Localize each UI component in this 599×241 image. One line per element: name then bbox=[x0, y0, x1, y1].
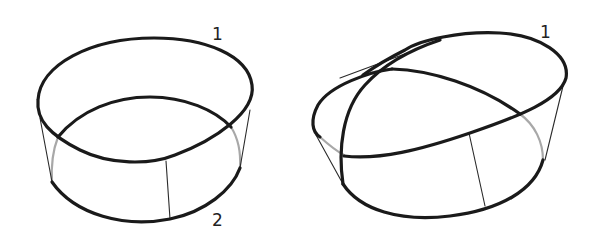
right-label-1: 1 bbox=[540, 22, 551, 42]
left-hidden-arc-left bbox=[52, 137, 58, 182]
left-label-2: 2 bbox=[212, 210, 223, 230]
right-inner-arch-curve bbox=[392, 69, 520, 114]
right-seam-line bbox=[469, 133, 485, 206]
left-seam-line bbox=[166, 161, 170, 219]
right-figure: 1 bbox=[313, 22, 566, 218]
left-label-1: 1 bbox=[212, 24, 223, 44]
left-top-edge-curve bbox=[38, 38, 252, 162]
diagram-canvas: 1 2 1 bbox=[0, 0, 599, 241]
right-crossing-arc bbox=[341, 40, 440, 184]
left-inner-arch-curve bbox=[58, 97, 231, 137]
right-side-line-left bbox=[316, 135, 343, 184]
right-bottom-edge-curve bbox=[343, 160, 543, 218]
left-hidden-arc-right bbox=[231, 127, 240, 168]
right-hidden-arc-right bbox=[520, 114, 543, 160]
left-figure: 1 2 bbox=[38, 24, 252, 230]
left-side-line-right bbox=[240, 110, 250, 168]
right-top-edge-curve bbox=[344, 33, 566, 157]
